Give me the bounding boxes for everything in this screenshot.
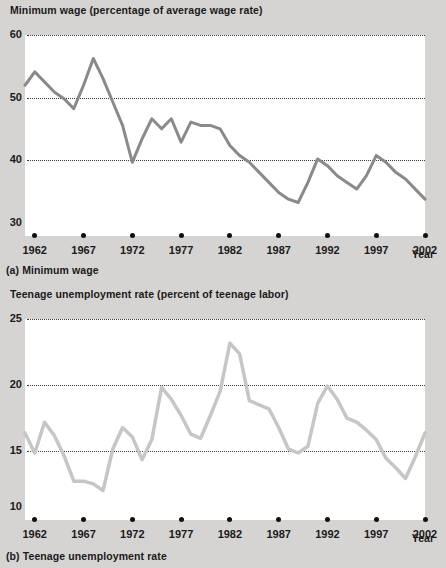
chart-a-xaxis-ticks: 196219671972197719821987199219972002 <box>0 0 446 282</box>
xtick-label-1972: 1972 <box>112 529 152 540</box>
xtick-label-1997: 1997 <box>356 245 396 256</box>
panel-teen-unemployment: Teenage unemployment rate (percent of te… <box>0 284 446 568</box>
xtick-label-1962: 1962 <box>15 245 55 256</box>
xtick-dot-1967 <box>81 517 86 522</box>
xtick-label-1997: 1997 <box>356 529 396 540</box>
xtick-dot-2002 <box>423 233 428 238</box>
xtick-label-1967: 1967 <box>64 529 104 540</box>
xtick-label-1987: 1987 <box>259 529 299 540</box>
xtick-label-1977: 1977 <box>161 529 201 540</box>
xtick-dot-1982 <box>227 517 232 522</box>
xtick-label-1992: 1992 <box>307 245 347 256</box>
panel-b-caption: (b) Teenage unemployment rate <box>6 550 167 562</box>
chart-b-xaxis-name: Year <box>412 532 434 544</box>
xtick-dot-1967 <box>81 233 86 238</box>
xtick-dot-1987 <box>276 233 281 238</box>
xtick-label-1967: 1967 <box>64 245 104 256</box>
xtick-dot-1997 <box>374 517 379 522</box>
xtick-dot-1997 <box>374 233 379 238</box>
xtick-label-1982: 1982 <box>210 529 250 540</box>
chart-a-xaxis-name: Year <box>412 248 434 260</box>
xtick-label-1962: 1962 <box>15 529 55 540</box>
xtick-dot-1962 <box>32 233 37 238</box>
xtick-dot-1987 <box>276 517 281 522</box>
xtick-dot-1962 <box>32 517 37 522</box>
xtick-label-1987: 1987 <box>259 245 299 256</box>
xtick-dot-1972 <box>130 517 135 522</box>
xtick-dot-1982 <box>227 233 232 238</box>
xtick-dot-1972 <box>130 233 135 238</box>
xtick-label-1977: 1977 <box>161 245 201 256</box>
xtick-dot-1977 <box>179 233 184 238</box>
chart-b-xaxis-ticks: 196219671972197719821987199219972002 <box>0 284 446 568</box>
xtick-dot-1992 <box>325 233 330 238</box>
xtick-dot-1992 <box>325 517 330 522</box>
xtick-label-1982: 1982 <box>210 245 250 256</box>
xtick-dot-2002 <box>423 517 428 522</box>
xtick-label-1972: 1972 <box>112 245 152 256</box>
xtick-label-1992: 1992 <box>307 529 347 540</box>
xtick-dot-1977 <box>179 517 184 522</box>
panel-a-caption: (a) Minimum wage <box>6 264 99 276</box>
panel-minimum-wage: Minimum wage (percentage of average wage… <box>0 0 446 282</box>
